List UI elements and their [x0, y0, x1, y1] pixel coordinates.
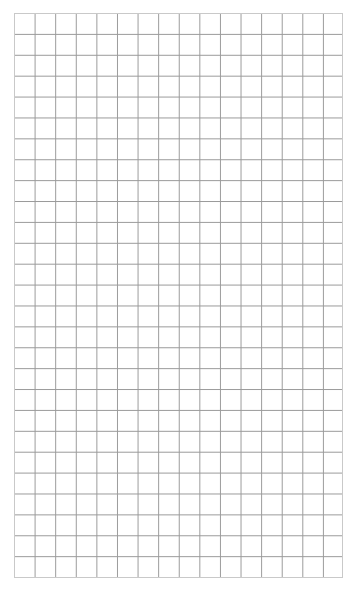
grid-sheet [14, 13, 343, 578]
grid-paper-page [0, 0, 359, 594]
